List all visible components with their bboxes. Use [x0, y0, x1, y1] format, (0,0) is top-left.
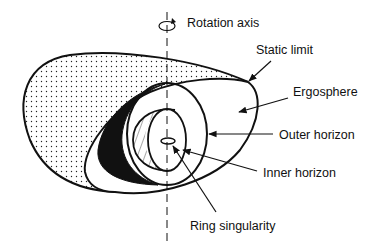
label-rotation-axis: Rotation axis [187, 16, 259, 30]
kerr-black-hole-diagram: Rotation axis Static limit Ergosphere Ou… [0, 0, 378, 251]
label-ergosphere: Ergosphere [293, 85, 358, 99]
label-static-limit: Static limit [256, 43, 313, 57]
label-ring-singularity: Ring singularity [190, 219, 276, 233]
label-inner-horizon: Inner horizon [263, 166, 336, 180]
label-outer-horizon: Outer horizon [279, 128, 355, 142]
arrow-static-limit [249, 61, 271, 81]
